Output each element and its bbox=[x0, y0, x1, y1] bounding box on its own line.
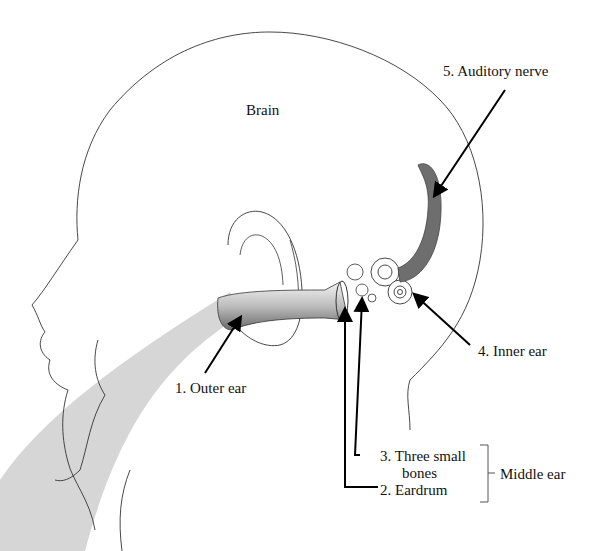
label-outer-ear: 1. Outer ear bbox=[175, 380, 246, 396]
label-middle-ear: Middle ear bbox=[500, 466, 565, 482]
auditory-nerve-shape bbox=[398, 164, 441, 282]
label-brain: Brain bbox=[246, 102, 279, 118]
label-inner-ear: 4. Inner ear bbox=[478, 343, 547, 359]
middle-ear-bracket bbox=[480, 445, 495, 502]
label-three-small-bones-line2: bones bbox=[402, 465, 437, 481]
label-eardrum: 2. Eardrum bbox=[380, 482, 447, 498]
label-auditory-nerve: 5. Auditory nerve bbox=[443, 63, 548, 79]
inner-ear-arrow bbox=[415, 295, 470, 345]
ear-diagram: Brain 5. Auditory nerve 4. Inner ear 1. … bbox=[0, 0, 601, 551]
three-small-bones-arrow bbox=[355, 300, 362, 455]
jaw-line bbox=[120, 470, 130, 551]
label-three-small-bones-line1: 3. Three small bbox=[380, 448, 466, 464]
eardrum-arrow bbox=[345, 310, 378, 487]
sound-wave-band bbox=[0, 292, 240, 551]
